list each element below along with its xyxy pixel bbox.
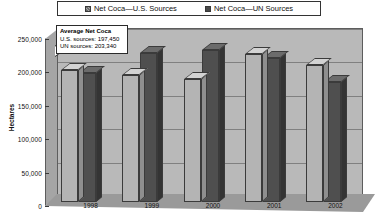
bar-side-face bbox=[96, 68, 102, 202]
bar-side-face bbox=[341, 77, 347, 202]
callout-title: Average Net Coca bbox=[60, 28, 124, 36]
x-axis-tick-label-1998: 1998 bbox=[83, 202, 97, 209]
callout-line-un: UN sources: 203,340 bbox=[60, 43, 124, 51]
average-net-coca-callout: Average Net Coca U.S. sources: 197,450 U… bbox=[56, 25, 128, 54]
y-axis-tick bbox=[45, 106, 49, 107]
bar-front-face bbox=[184, 79, 201, 202]
bar-side-face bbox=[280, 53, 286, 202]
bar-1998-us-sources bbox=[61, 70, 78, 202]
x-axis-tick-label-1999: 1999 bbox=[145, 202, 159, 209]
y-axis-tick bbox=[45, 173, 49, 174]
bar-side-face bbox=[323, 60, 329, 202]
bar-side-face bbox=[201, 74, 207, 202]
legend-swatch-us-sources-icon bbox=[85, 6, 91, 12]
bar-1999-us-sources bbox=[122, 75, 139, 202]
coca-cultivation-bar-chart: Net Coca—U.S. Sources Net Coca—UN Source… bbox=[0, 0, 379, 212]
callout-line-us: U.S. sources: 197,450 bbox=[60, 36, 124, 44]
bar-front-face bbox=[306, 65, 323, 202]
y-axis-tick bbox=[45, 139, 49, 140]
bar-front-face bbox=[245, 54, 262, 202]
bar-side-face bbox=[219, 44, 225, 201]
x-axis-tick-label-2001: 2001 bbox=[267, 202, 281, 209]
chart-legend: Net Coca—U.S. Sources Net Coca—UN Source… bbox=[57, 1, 321, 16]
y-axis-tick bbox=[45, 206, 49, 207]
legend-label-us-sources: Net Coca—U.S. Sources bbox=[94, 5, 177, 13]
bar-side-face bbox=[139, 70, 145, 202]
bar-side-face bbox=[78, 65, 84, 202]
legend-label-un-sources: Net Coca—UN Sources bbox=[214, 5, 293, 13]
legend-item-us-sources: Net Coca—U.S. Sources bbox=[85, 5, 177, 13]
bar-front-face bbox=[122, 75, 139, 202]
bar-2002-us-sources bbox=[306, 65, 323, 202]
legend-item-un-sources: Net Coca—UN Sources bbox=[205, 5, 293, 13]
bar-2000-us-sources bbox=[184, 79, 201, 202]
y-axis-tick bbox=[45, 72, 49, 73]
legend-swatch-un-sources-icon bbox=[205, 6, 211, 12]
bar-side-face bbox=[262, 48, 268, 201]
x-axis-tick-label-2002: 2002 bbox=[328, 202, 342, 209]
bar-2001-us-sources bbox=[245, 54, 262, 202]
y-axis-tick bbox=[45, 39, 49, 40]
bar-side-face bbox=[157, 48, 163, 202]
bar-front-face bbox=[61, 70, 78, 202]
